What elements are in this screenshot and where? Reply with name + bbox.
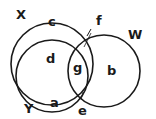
- region-f-label: f: [96, 13, 102, 28]
- region-e-label: e: [78, 103, 87, 118]
- region-b-label: b: [107, 63, 116, 78]
- set-x-label: X: [16, 7, 26, 22]
- set-w-label: W: [128, 27, 142, 42]
- region-d-label: d: [46, 51, 55, 66]
- region-a-label: a: [50, 95, 59, 110]
- region-c-label: c: [48, 14, 56, 29]
- region-g-label: g: [73, 60, 82, 75]
- venn-diagram: X Y W c d g b a f e: [0, 0, 156, 119]
- set-y-label: Y: [23, 101, 34, 116]
